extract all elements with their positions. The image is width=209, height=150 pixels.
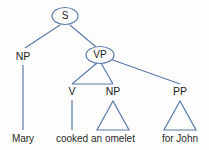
leaf-for-john: for John: [162, 133, 198, 144]
vp-label: VP: [93, 49, 107, 60]
s-label: S: [62, 10, 69, 21]
node-v[interactable]: V: [68, 85, 75, 97]
triangle-np-object: [97, 101, 129, 130]
edge-s-to-np-subject: [25, 25, 60, 48]
np-subject-label: NP: [16, 50, 31, 62]
edge-s-to-vp: [70, 25, 96, 47]
leaf-cooked: cooked: [56, 133, 88, 144]
leaf-an-omelet: an omelet: [91, 133, 135, 144]
node-np-object[interactable]: NP: [106, 85, 121, 97]
triangle-pp: [164, 101, 196, 130]
edge-vp-to-pp: [110, 59, 180, 84]
tree-canvas: S NP VP V NP PP: [0, 0, 209, 150]
edge-group-s: [25, 25, 96, 48]
edge-group-vp: [72, 59, 180, 84]
node-s[interactable]: S: [52, 8, 78, 25]
node-np-subject[interactable]: NP: [16, 50, 31, 62]
pp-label: PP: [173, 85, 187, 97]
edge-vp-to-np-object: [101, 63, 113, 84]
leaf-mary: Mary: [12, 133, 34, 144]
edge-vp-to-v: [72, 63, 97, 84]
v-label: V: [68, 85, 75, 97]
leaf-group: Mary cooked an omelet for John: [12, 133, 198, 144]
node-pp[interactable]: PP: [173, 85, 187, 97]
np-object-label: NP: [106, 85, 121, 97]
syntax-tree-diagram: S NP VP V NP PP: [0, 0, 209, 150]
node-vp[interactable]: VP: [86, 47, 114, 64]
